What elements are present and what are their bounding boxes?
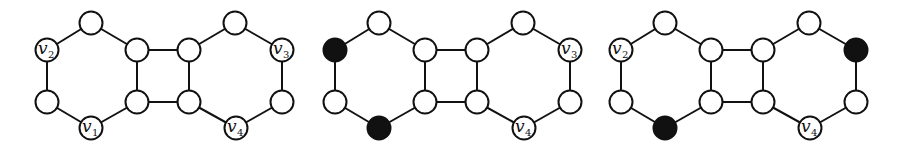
graph-vertex xyxy=(798,12,821,35)
vertex-label-subscript: 1 xyxy=(92,127,98,138)
graph-vertex xyxy=(224,12,247,35)
panel-1: v2v1v3v4 xyxy=(36,12,294,140)
vertex-label-subscript: 2 xyxy=(622,49,628,60)
vertex-label: v xyxy=(612,38,622,58)
vertex-label-subscript: 3 xyxy=(571,49,577,60)
graph-vertex xyxy=(368,12,391,35)
graph-vertex xyxy=(126,91,149,114)
graph-vertex xyxy=(654,12,677,35)
vertex-label-subscript: 2 xyxy=(48,49,54,60)
graph-vertex xyxy=(845,91,868,114)
graph-vertex xyxy=(700,39,723,62)
graph-vertex xyxy=(466,91,489,114)
vertex-label: v xyxy=(515,116,525,136)
graph-vertex xyxy=(752,91,775,114)
graph-vertex xyxy=(324,91,347,114)
graph-vertex xyxy=(80,12,103,35)
vertex-label: v xyxy=(38,38,48,58)
selected-vertex xyxy=(845,39,868,62)
vertex-label: v xyxy=(801,116,811,136)
selected-vertex xyxy=(368,117,391,140)
graph-vertex xyxy=(178,91,201,114)
graph-vertex xyxy=(559,91,582,114)
vertex-label-subscript: 3 xyxy=(283,49,289,60)
vertex-label: v xyxy=(273,38,283,58)
graph-vertex xyxy=(610,91,633,114)
panel-3: v2v4 xyxy=(610,12,868,140)
vertex-label-subscript: 4 xyxy=(811,127,817,138)
graph-vertex xyxy=(36,91,59,114)
vertex-label: v xyxy=(82,116,92,136)
graph-diagram: v2v1v3v4v3v4v2v4 xyxy=(0,0,898,147)
panel-2: v3v4 xyxy=(324,12,582,140)
vertex-label-subscript: 4 xyxy=(525,127,531,138)
graph-vertex xyxy=(271,91,294,114)
graph-vertex xyxy=(700,91,723,114)
vertex-label: v xyxy=(227,116,237,136)
graph-vertex xyxy=(512,12,535,35)
graph-vertex xyxy=(414,39,437,62)
graph-vertex xyxy=(414,91,437,114)
graph-vertex xyxy=(466,39,489,62)
graph-vertex xyxy=(178,39,201,62)
selected-vertex xyxy=(654,117,677,140)
vertex-label-subscript: 4 xyxy=(237,127,243,138)
selected-vertex xyxy=(324,39,347,62)
graph-vertex xyxy=(126,39,149,62)
vertex-label: v xyxy=(561,38,571,58)
graph-vertex xyxy=(752,39,775,62)
